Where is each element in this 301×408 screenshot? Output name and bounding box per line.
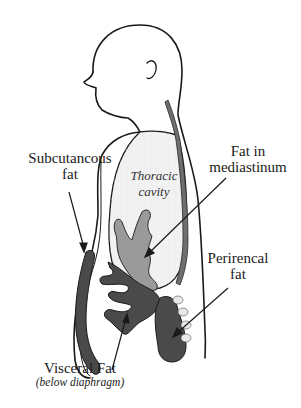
label-perirenal-line1: Perirencal [198,250,278,266]
fat-depots-diagram: Subcutancous fat Fat in mediastinum Thor… [0,0,301,408]
label-fat-in-mediastinum: Fat in mediastinum [196,143,300,175]
label-thoracic-cavity: Thoracic cavity [122,168,186,200]
subcutaneous-fat-shape [75,250,100,374]
label-perirenal-fat: Perirencal fat [198,250,278,282]
label-subcutaneous-fat: Subcutancous fat [18,150,122,182]
label-thoracic-line1: Thoracic [122,168,186,184]
label-mediastinum-line1: Fat in [196,143,300,159]
label-perirenal-line2: fat [198,266,278,282]
body-illustration [0,0,301,408]
label-visceral-line2: (below diaphragm) [20,376,140,389]
label-thoracic-line2: cavity [122,184,186,200]
label-mediastinum-line2: mediastinum [196,159,300,175]
label-visceral-line1: Visceral Fat [20,360,140,376]
label-subcutaneous-line1: Subcutancous [18,150,122,166]
label-visceral-fat: Visceral Fat (below diaphragm) [20,360,140,389]
label-subcutaneous-line2: fat [18,166,122,182]
